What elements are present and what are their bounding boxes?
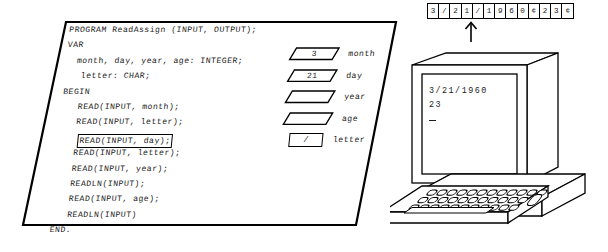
code-line: END. bbox=[49, 222, 351, 237]
variable-row-age: age bbox=[281, 112, 370, 134]
cursor-icon bbox=[429, 113, 436, 121]
variable-box-day: 21 bbox=[286, 69, 339, 83]
tape-cell: 3 bbox=[551, 4, 562, 18]
tape-cell: 9 bbox=[495, 4, 506, 18]
variable-value-month: 3 bbox=[288, 47, 341, 61]
variable-value-age bbox=[281, 112, 334, 126]
monitor-side-face bbox=[527, 53, 558, 183]
screen-line: 23 bbox=[429, 98, 488, 112]
keyboard-front bbox=[390, 212, 508, 223]
up-arrow-icon bbox=[463, 19, 479, 43]
variable-label-month: month bbox=[348, 47, 376, 61]
tape-cell: 3 bbox=[428, 4, 439, 18]
tape-cell: 1 bbox=[484, 4, 495, 18]
variable-box-month: 3 bbox=[288, 47, 341, 61]
tape-cell: 6 bbox=[506, 4, 517, 18]
tape-cell: 2 bbox=[450, 4, 461, 18]
variable-value-letter: / bbox=[303, 135, 309, 145]
tape-cell: 1 bbox=[462, 4, 473, 18]
variable-value-year bbox=[283, 90, 336, 104]
computer-illustration bbox=[390, 52, 608, 252]
figure-canvas: PROGRAM ReadAssign (INPUT, OUTPUT); VAR … bbox=[0, 0, 608, 252]
input-stream-tape: 3/21/1960¢23¢ bbox=[427, 3, 574, 19]
variable-row-month: 3 month bbox=[287, 47, 376, 69]
variable-box-year bbox=[283, 90, 336, 104]
variable-label-letter: letter bbox=[332, 133, 366, 147]
code-line: READ(INPUT, year); bbox=[55, 161, 357, 176]
terminal-screen-output: 3/21/1960 23 bbox=[429, 84, 488, 126]
screen-line-cursor bbox=[429, 112, 488, 126]
variable-value-day: 21 bbox=[286, 69, 339, 83]
tape-cell: / bbox=[473, 4, 484, 18]
code-line: READLN(INPUT); bbox=[53, 176, 355, 191]
tape-cell: ¢ bbox=[529, 4, 540, 18]
variable-box-letter: / bbox=[288, 133, 323, 147]
tape-cell: ¢ bbox=[562, 4, 573, 18]
tape-cell: 0 bbox=[518, 4, 529, 18]
tape-cell: / bbox=[439, 4, 450, 18]
variable-row-day: 21 day bbox=[285, 69, 374, 91]
variable-label-day: day bbox=[346, 69, 363, 83]
variable-box-age bbox=[281, 112, 334, 126]
space-bar bbox=[404, 208, 494, 214]
variable-label-age: age bbox=[341, 112, 358, 126]
variable-label-year: year bbox=[343, 90, 366, 104]
code-line: PROGRAM ReadAssign (INPUT, OUTPUT); bbox=[68, 22, 370, 37]
tape-cell: 2 bbox=[540, 4, 551, 18]
variable-boxes: 3 month 21 day year bbox=[278, 47, 375, 155]
variable-row-year: year bbox=[283, 90, 372, 112]
code-line: READLN(INPUT) bbox=[50, 207, 352, 222]
variable-row-letter: / letter bbox=[278, 133, 367, 155]
screen-line: 3/21/1960 bbox=[429, 84, 488, 98]
code-line: READ(INPUT, age); bbox=[52, 191, 354, 206]
